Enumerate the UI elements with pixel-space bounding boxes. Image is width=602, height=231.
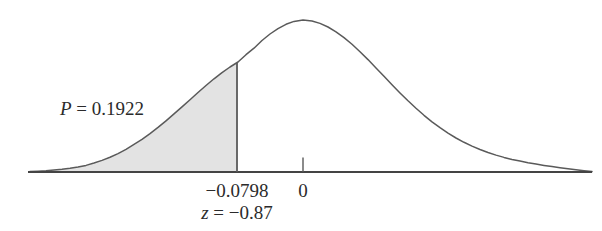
z-score-label: z = −0.87 (201, 203, 273, 222)
normal-distribution-figure: P = 0.1922 −0.0798 0 z = −0.87 (0, 0, 602, 231)
normal-curve (30, 20, 592, 172)
x-tick-label-center: 0 (298, 181, 308, 200)
probability-variable: P (60, 98, 72, 119)
x-tick-label-boundary: −0.0798 (206, 181, 269, 200)
probability-equals: = (72, 98, 92, 119)
z-score-equals: = (209, 202, 229, 223)
z-score-value: −0.87 (229, 202, 273, 223)
probability-value: 0.1922 (92, 98, 144, 119)
probability-label: P = 0.1922 (60, 99, 144, 118)
